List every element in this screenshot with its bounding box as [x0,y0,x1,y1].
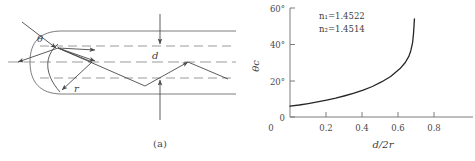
radius-arc [48,44,92,92]
chart-critical-angle-vs-offset: 0 20° 40° 60° 0 0.2 0.4 0.6 0.8 θc d/2r … [235,0,475,161]
caption-panel-a: (a) [140,138,180,149]
x-tick-label-0: 0 [268,123,273,133]
chart-axes [290,8,473,117]
y-axis-label: θc [250,60,261,72]
x-tick-label-04: 0.4 [355,123,369,133]
chart-y-ticks [290,8,295,117]
y-tick-label-20: 20° [270,77,285,87]
label-theta: θ [37,33,43,44]
figure-panel-b: 0 20° 40° 60° 0 0.2 0.4 0.6 0.8 θc d/2r … [235,0,475,161]
x-axis-label: d/2r [373,139,395,150]
diagram-fiber-ray-trace: θ d r [0,0,240,161]
angle-theta-construction [18,48,95,62]
internal-ray-path [58,48,228,86]
fiber-outer-wall [30,31,236,94]
x-tick-label-02: 0.2 [319,123,333,133]
label-r: r [74,83,80,94]
x-tick-label-08: 0.8 [427,123,441,133]
x-tick-label-06: 0.6 [391,123,405,133]
annotation-n2: n₂=1.4514 [319,24,365,34]
y-tick-label-40: 40° [270,40,285,50]
y-tick-label-60: 60° [270,4,285,14]
chart-x-ticks [326,112,434,117]
annotation-n1: n₁=1.4522 [319,11,365,21]
label-d: d [152,50,158,61]
y-tick-label-0: 0 [280,113,285,123]
figure-panel-a: θ d r (a) [0,0,240,161]
